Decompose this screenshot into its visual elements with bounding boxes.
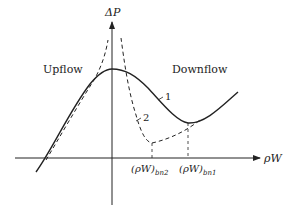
- curve-1-leader: [158, 97, 163, 100]
- tick-bn2: (ρW)bn2: [131, 163, 169, 177]
- upflow-label: Upflow: [43, 63, 83, 76]
- curve-2-leader: [136, 118, 141, 121]
- y-axis-label: ΔP: [104, 6, 121, 19]
- curve-2-right: [121, 38, 200, 143]
- tick-bn1: (ρW)bn1: [179, 163, 216, 177]
- curve-2-label: 2: [143, 112, 149, 123]
- flow-characteristic-diagram: ΔP ρW Upflow Downflow 1 2 (ρW)bn2 (ρW)bn…: [0, 0, 292, 217]
- curve-2-left: [46, 40, 108, 160]
- downflow-label: Downflow: [172, 63, 228, 76]
- x-axis-label: ρW: [263, 152, 283, 165]
- curve-1-label: 1: [165, 91, 171, 102]
